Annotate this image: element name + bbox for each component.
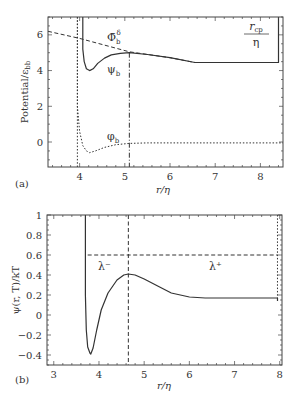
- panel-b-tag: (b): [15, 374, 29, 385]
- svg-text:7: 7: [212, 171, 218, 182]
- svg-text:8: 8: [277, 369, 283, 380]
- panel-a-xlabel: r/η: [156, 184, 170, 195]
- panel-a-tag: (a): [15, 178, 29, 189]
- annotation-phi-b: φb: [107, 130, 120, 145]
- svg-text:5: 5: [141, 369, 147, 380]
- annotation-phibar: Φ̄bδ: [107, 29, 121, 46]
- svg-text:0.4: 0.4: [26, 270, 42, 281]
- panel-b-xlabel: r/η: [157, 380, 171, 391]
- annotation-psi-b: ψb: [107, 63, 121, 78]
- panel-b: 345678−0.4−0.200.20.40.60.81 r/η ψ(r, T)…: [10, 210, 283, 392]
- svg-text:−0.4: −0.4: [18, 350, 42, 361]
- svg-text:4: 4: [76, 171, 82, 182]
- svg-text:η: η: [253, 36, 260, 49]
- svg-text:0.8: 0.8: [26, 230, 42, 241]
- svg-text:6: 6: [167, 171, 173, 182]
- svg-text:−0.2: −0.2: [18, 330, 42, 341]
- figure: 456780246 r/η Potential/εbb (a) Φ̄bδ ψb …: [0, 0, 301, 408]
- svg-text:6: 6: [186, 369, 192, 380]
- svg-text:5: 5: [122, 171, 128, 182]
- svg-text:6: 6: [37, 29, 43, 40]
- panel-b-ticks: 345678−0.4−0.200.20.40.60.81: [18, 210, 283, 381]
- svg-text:2: 2: [37, 101, 43, 112]
- svg-text:0.2: 0.2: [26, 290, 42, 301]
- annotation-lambda-minus: λ⁻: [98, 260, 111, 273]
- svg-text:7: 7: [231, 369, 237, 380]
- svg-text:3: 3: [51, 369, 57, 380]
- svg-text:4: 4: [37, 65, 43, 76]
- svg-text:0: 0: [37, 137, 43, 148]
- panel-a-ylabel: Potential/εbb: [19, 60, 32, 123]
- panel-b-curves: [85, 215, 277, 365]
- svg-text:0.6: 0.6: [26, 250, 42, 261]
- svg-text:0: 0: [36, 310, 42, 321]
- svg-text:8: 8: [257, 171, 263, 182]
- panel-a: 456780246 r/η Potential/εbb (a) Φ̄bδ ψb …: [15, 17, 283, 195]
- svg-text:rcp: rcp: [249, 20, 263, 34]
- svg-text:1: 1: [36, 210, 42, 221]
- svg-text:4: 4: [96, 369, 102, 380]
- panel-b-ylabel: ψ(r, T)/kT: [10, 265, 21, 314]
- series-line: [85, 215, 277, 354]
- annotation-lambda-plus: λ⁺: [209, 260, 222, 273]
- panel-a-ticks: 456780246: [37, 17, 283, 182]
- panel-a-curves: [48, 17, 283, 167]
- annotation-rcp: rcp η: [244, 20, 269, 49]
